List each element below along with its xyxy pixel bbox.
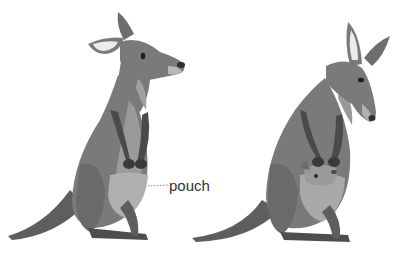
pouch-leader-line xyxy=(148,185,168,186)
pouch-label: pouch xyxy=(169,178,210,193)
kangaroo-right xyxy=(192,22,390,242)
kangaroo-left xyxy=(8,12,185,240)
kangaroo-illustration: pouch xyxy=(0,0,408,256)
illustration-svg xyxy=(0,0,408,256)
